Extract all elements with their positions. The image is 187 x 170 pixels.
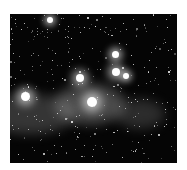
bright-star (21, 92, 30, 101)
star (105, 32, 106, 33)
star (36, 115, 37, 116)
star (21, 29, 22, 30)
star (170, 15, 171, 16)
star (106, 129, 107, 130)
bright-star (76, 74, 84, 82)
star (175, 80, 176, 81)
star (144, 135, 145, 136)
star (131, 150, 132, 151)
star (97, 69, 99, 71)
star (138, 142, 139, 143)
star (55, 53, 56, 54)
star (93, 149, 94, 150)
star (87, 17, 89, 19)
star (68, 31, 69, 32)
star (31, 55, 32, 56)
star (162, 103, 163, 104)
star (163, 43, 164, 44)
star (166, 119, 167, 120)
star (62, 106, 63, 107)
star (158, 134, 160, 136)
star (100, 29, 101, 30)
star (75, 68, 76, 69)
star (32, 147, 33, 148)
star (100, 69, 101, 70)
star (153, 14, 155, 16)
star (57, 113, 58, 114)
star (12, 39, 13, 40)
star (44, 15, 45, 16)
star (15, 19, 16, 20)
star (80, 58, 81, 59)
star (42, 120, 43, 121)
star (56, 153, 57, 154)
star (82, 83, 83, 84)
star (92, 48, 93, 49)
star (42, 20, 43, 21)
star (110, 30, 111, 31)
star (19, 56, 20, 57)
star (24, 23, 25, 24)
star (15, 78, 16, 79)
star (166, 19, 167, 20)
star (44, 36, 45, 37)
star (58, 30, 60, 32)
star (150, 81, 151, 82)
star (105, 57, 107, 59)
star (105, 27, 107, 29)
star (175, 109, 176, 110)
star (61, 146, 63, 148)
star (134, 93, 135, 94)
star (165, 109, 166, 110)
star (132, 141, 133, 142)
star (145, 27, 147, 29)
star (101, 115, 102, 116)
star (76, 139, 77, 140)
star (53, 88, 54, 89)
star (79, 27, 80, 28)
star (133, 19, 134, 20)
star (15, 23, 16, 24)
star (47, 150, 48, 151)
star (47, 37, 48, 38)
star (164, 126, 165, 127)
star (12, 101, 13, 102)
star (52, 74, 53, 75)
star (94, 133, 96, 135)
star (10, 76, 12, 78)
bright-star (123, 73, 129, 79)
star (146, 31, 147, 32)
star (14, 62, 15, 63)
star (156, 67, 157, 68)
star (35, 88, 36, 89)
star (57, 65, 58, 66)
star (84, 27, 85, 28)
star (32, 70, 33, 71)
star-field-image (10, 14, 177, 163)
star (167, 27, 168, 28)
star (47, 81, 48, 82)
star (47, 72, 48, 73)
star (23, 88, 24, 89)
star (158, 84, 159, 85)
star (154, 80, 155, 81)
star (16, 26, 17, 27)
star (51, 154, 52, 155)
star (93, 76, 94, 77)
star (91, 24, 92, 25)
star (102, 148, 103, 149)
star (101, 146, 102, 147)
star (34, 18, 35, 19)
star (51, 32, 52, 33)
star (32, 30, 34, 32)
star (28, 41, 29, 42)
bright-star (47, 17, 53, 23)
star (144, 24, 146, 26)
star (173, 107, 174, 108)
star (96, 19, 98, 21)
star (81, 156, 83, 158)
star (20, 70, 21, 71)
star (131, 55, 132, 56)
star (100, 51, 101, 52)
star (149, 140, 150, 141)
